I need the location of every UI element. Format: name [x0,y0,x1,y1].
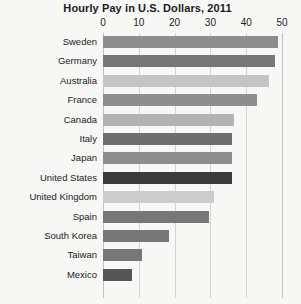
bar-taiwan [103,249,142,261]
category-label: Taiwan [2,248,97,261]
category-label: Sweden [2,35,97,48]
bar-row: Japan [0,152,301,164]
category-label: Italy [2,132,97,145]
category-label: France [2,93,97,106]
bar-chart: Hourly Pay in U.S. Dollars, 2011 0102030… [0,0,301,304]
bar-row: United States [0,172,301,184]
bar-row: United Kingdom [0,191,301,203]
category-label: South Korea [2,229,97,242]
bar-united-states [103,172,232,184]
bar-south-korea [103,230,169,242]
bar-france [103,94,257,106]
category-label: Japan [2,151,97,164]
bar-row: France [0,94,301,106]
bar-australia [103,75,269,87]
bar-mexico [103,269,132,281]
category-label: United Kingdom [2,190,97,203]
bar-row: Mexico [0,269,301,281]
bar-row: Canada [0,114,301,126]
bar-italy [103,133,232,145]
bar-row: Spain [0,211,301,223]
category-label: Mexico [2,268,97,281]
category-label: United States [2,171,97,184]
bar-united-kingdom [103,191,214,203]
category-label: Canada [2,113,97,126]
bar-row: South Korea [0,230,301,242]
bar-row: Taiwan [0,249,301,261]
bar-row: Sweden [0,36,301,48]
bar-sweden [103,36,278,48]
category-label: Australia [2,74,97,87]
bar-row: Italy [0,133,301,145]
bar-row: Germany [0,55,301,67]
category-label: Spain [2,210,97,223]
bar-spain [103,211,209,223]
bar-japan [103,152,232,164]
bar-germany [103,55,275,67]
bar-canada [103,114,234,126]
bar-row: Australia [0,75,301,87]
category-label: Germany [2,54,97,67]
bar-rows: SwedenGermanyAustraliaFranceCanadaItalyJ… [0,0,301,304]
